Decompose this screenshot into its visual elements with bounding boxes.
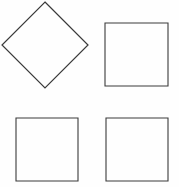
figure-container [0,0,179,187]
shapes-canvas [0,0,179,187]
figure-background [0,0,179,187]
